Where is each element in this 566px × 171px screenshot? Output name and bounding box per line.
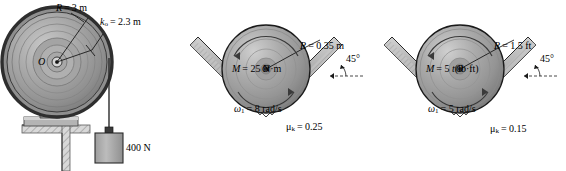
label-radius-b: R = 0.35 m xyxy=(300,41,344,51)
figure-panel-b: O R = 0.35 m M = 25 N·m ω1 = 8 rad/s μk … xyxy=(190,0,380,171)
label-weight-a: 400 N xyxy=(126,143,151,153)
panel-a-drawing xyxy=(0,0,190,171)
label-radius-a: R = 3 m xyxy=(56,3,87,13)
label-moment-c: M = 5 t(lb·ft) xyxy=(426,64,479,74)
label-angle-b: 45° xyxy=(346,54,360,64)
label-omega-c: ω1 = 5 rad/s xyxy=(428,104,476,115)
figure-panel-a: O R = 3 m ko = 2.3 m 400 N xyxy=(0,0,190,171)
label-omega-b: ω1 = 8 rad/s xyxy=(234,104,282,115)
label-gyration-a: ko = 2.3 m xyxy=(100,17,141,28)
panel-b-drawing xyxy=(190,0,380,171)
panel-c-drawing xyxy=(376,0,566,171)
figure-panel-c: O R = 1.5 ft M = 5 t(lb·ft) ω1 = 5 rad/s… xyxy=(376,0,566,171)
label-friction-c: μk = 0.15 xyxy=(490,124,527,135)
angle-annotation-c xyxy=(524,65,559,79)
label-radius-c: R = 1.5 ft xyxy=(494,41,531,51)
label-moment-b: M = 25 N·m xyxy=(232,64,281,74)
label-angle-c: 45° xyxy=(540,54,554,64)
ground-support-hatch xyxy=(22,125,90,171)
label-friction-b: μk = 0.25 xyxy=(286,122,323,133)
angle-annotation-b xyxy=(330,65,365,79)
center-label-o-a: O xyxy=(38,56,45,67)
hanging-weight-block xyxy=(95,133,123,163)
